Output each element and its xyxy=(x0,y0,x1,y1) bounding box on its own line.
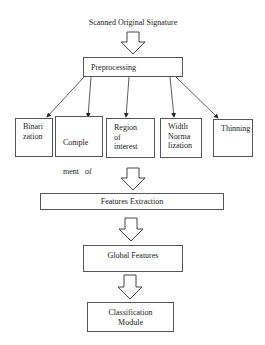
step-line: Region xyxy=(114,123,154,133)
step-width-normalization: Width Norma lization xyxy=(160,118,202,158)
preprocessing-box: Preprocessing xyxy=(83,57,183,77)
step-line: Width xyxy=(168,122,201,132)
hollow-arrow-icon xyxy=(119,218,143,241)
hollow-arrow-icon xyxy=(118,275,142,299)
step-thinning: Thinning xyxy=(213,119,253,157)
preprocessing-label: Preprocessing xyxy=(91,63,136,73)
step-line: interest xyxy=(114,142,154,152)
classification-module-box: Classification Module xyxy=(87,302,174,332)
hollow-arrow-icon xyxy=(121,32,145,54)
features-extraction-label: Features Extraction xyxy=(41,194,223,207)
step-line: zation xyxy=(23,132,52,142)
hollow-arrow-icon xyxy=(121,168,145,190)
source-label: Scanned Original Signature xyxy=(60,18,206,28)
step-line: lization xyxy=(168,141,201,151)
step-line: ment of xyxy=(63,167,102,177)
classification-label: Classification xyxy=(88,308,173,318)
step-binarization: Binari zation xyxy=(15,118,53,157)
features-extraction-box: Features Extraction xyxy=(40,193,224,210)
global-features-label: Global Features xyxy=(84,246,182,261)
step-region-of-interest: Region of interest xyxy=(106,118,155,158)
step-line: Norma xyxy=(168,132,201,142)
step-line: Binari xyxy=(23,122,52,132)
step-line: Comple xyxy=(63,138,102,148)
step-line: of xyxy=(114,133,154,143)
branch-arrows xyxy=(47,77,218,118)
step-complement: Comple ment of Binary xyxy=(55,116,103,157)
connector-layer xyxy=(0,0,265,345)
step-line: Thinning xyxy=(221,124,252,134)
global-features-box: Global Features xyxy=(83,245,183,272)
classification-label: Module xyxy=(88,318,173,328)
